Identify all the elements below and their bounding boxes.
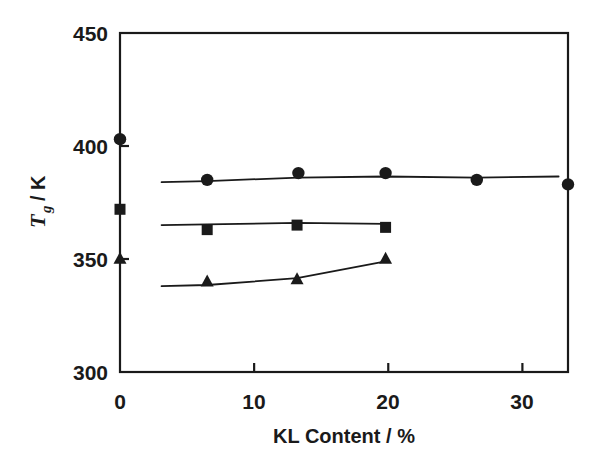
y-axis-title-symbol: T — [25, 213, 50, 228]
circle-series-line — [162, 177, 559, 183]
square-axis-point — [115, 204, 126, 215]
series-lines — [162, 177, 559, 287]
circle-series-point-3 — [471, 174, 483, 186]
plot-frame — [120, 33, 568, 372]
circle-axis-point — [114, 133, 126, 145]
x-tick-label-20: 20 — [376, 390, 399, 413]
triangle-series-line — [162, 261, 386, 286]
triangle-series-point-0 — [201, 274, 214, 286]
square-series-line — [162, 223, 386, 225]
x-tick-label-10: 10 — [242, 390, 265, 413]
plot-svg: 450 400 350 300 0 10 20 30 KL Content / … — [0, 0, 596, 475]
square-series-point-0 — [202, 224, 213, 235]
triangle-axis-point — [114, 252, 127, 264]
y-axis-title-unit: / K — [27, 175, 49, 201]
y-tick-label-350: 350 — [73, 248, 108, 271]
x-tick-label-30: 30 — [510, 390, 533, 413]
circle-series-point-2 — [379, 167, 391, 179]
series-markers — [201, 167, 575, 287]
x-axis-title: KL Content / % — [273, 425, 415, 447]
y-tick-label-400: 400 — [73, 135, 108, 158]
circle-series-point-4 — [562, 178, 574, 190]
y-tick-label-300: 300 — [73, 361, 108, 384]
y-axis-tick-labels: 450 400 350 300 — [73, 22, 108, 384]
circle-series-point-0 — [201, 174, 213, 186]
square-series-point-2 — [380, 222, 391, 233]
triangle-series-point-2 — [379, 252, 392, 264]
square-series-point-1 — [292, 220, 303, 231]
x-tick-label-0: 0 — [114, 390, 126, 413]
chart-figure: 450 400 350 300 0 10 20 30 KL Content / … — [0, 0, 596, 475]
y-axis-title: T g / K — [25, 175, 54, 228]
x-axis-tick-labels: 0 10 20 30 — [114, 390, 534, 413]
tick-marks — [120, 146, 522, 372]
y-tick-label-450: 450 — [73, 22, 108, 45]
circle-series-point-1 — [292, 167, 304, 179]
y-axis-title-subscript: g — [38, 205, 54, 214]
